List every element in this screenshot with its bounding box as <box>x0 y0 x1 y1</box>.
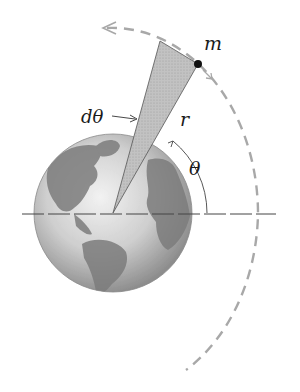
label-dtheta: dθ <box>81 106 104 127</box>
theta-arrowhead-icon <box>168 141 173 147</box>
label-radius: r <box>180 108 191 130</box>
velocity-arrow-icon <box>203 70 212 79</box>
label-mass: m <box>204 32 222 54</box>
label-theta: θ <box>189 157 201 179</box>
mass-point <box>194 60 202 68</box>
dtheta-pointer <box>112 116 135 119</box>
orbit-diagram: m r θ dθ <box>0 0 300 392</box>
